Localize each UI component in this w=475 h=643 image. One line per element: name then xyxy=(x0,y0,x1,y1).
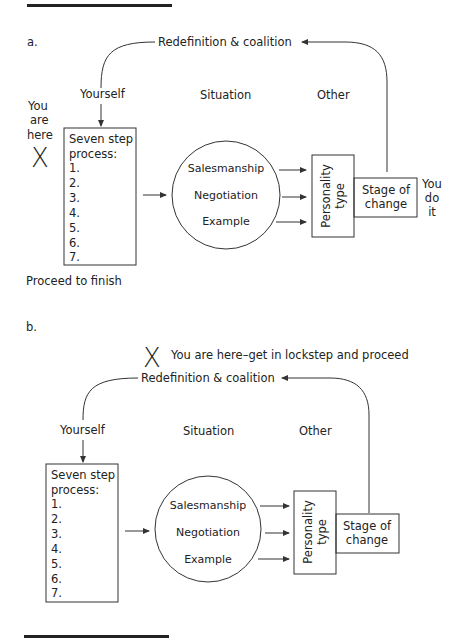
you-are-here-2: are xyxy=(30,113,49,127)
circle-negotiation: Negotiation xyxy=(194,189,258,202)
loop-left-curve xyxy=(101,42,155,88)
step-6: 6. xyxy=(69,236,80,250)
personality-b-line-2: type xyxy=(315,519,329,545)
circle-b-example: Example xyxy=(184,553,232,566)
personality-line-1: Personality xyxy=(319,164,333,228)
circle-example: Example xyxy=(202,215,250,228)
you-do-it-1: You xyxy=(421,177,442,191)
step-7: 7. xyxy=(69,250,80,264)
panel-a-loop-label: Redefinition & coalition xyxy=(158,35,292,49)
personality-line-2: type xyxy=(333,183,347,209)
x-marker-icon: X xyxy=(31,143,49,173)
process-b-title-2: process: xyxy=(51,483,99,497)
panel-a-label: a. xyxy=(27,35,38,49)
process-b-title-1: Seven step xyxy=(51,468,115,482)
stage-line-2: change xyxy=(365,197,407,211)
step-b-6: 6. xyxy=(51,572,62,586)
panel-a: a. Redefinition & coalition Yourself Sit… xyxy=(26,35,442,288)
step-b-5: 5. xyxy=(51,557,62,571)
x-marker-icon-b: X xyxy=(143,343,161,373)
stage-b-line-2: change xyxy=(346,533,388,547)
panel-b-label: b. xyxy=(26,320,37,334)
step-3: 3. xyxy=(69,191,80,205)
loop-left-curve-b xyxy=(83,378,138,420)
col-situation: Situation xyxy=(200,88,251,102)
you-are-here-1: You xyxy=(27,99,48,113)
panel-b-loop-label: Redefinition & coalition xyxy=(141,371,275,385)
step-5: 5. xyxy=(69,221,80,235)
col-other-b: Other xyxy=(299,424,332,438)
step-b-7: 7. xyxy=(51,586,62,600)
process-title-1: Seven step xyxy=(69,132,133,146)
step-b-2: 2. xyxy=(51,512,62,526)
step-2: 2. xyxy=(69,176,80,190)
step-b-1: 1. xyxy=(51,497,62,511)
personality-b-line-1: Personality xyxy=(301,500,315,564)
circle-b-negotiation: Negotiation xyxy=(176,526,240,539)
loop-right-arrow-b xyxy=(282,378,369,513)
process-title-2: process: xyxy=(69,147,117,161)
circle-salesmanship: Salesmanship xyxy=(188,162,264,175)
you-do-it-3: it xyxy=(428,205,436,219)
panel-b: b. X You are here–get in lockstep and pr… xyxy=(26,320,409,602)
loop-right-arrow xyxy=(302,42,387,172)
top-rule xyxy=(27,4,172,7)
col-yourself: Yourself xyxy=(79,87,126,101)
step-4: 4. xyxy=(69,206,80,220)
stage-line-1: Stage of xyxy=(362,183,411,197)
step-b-4: 4. xyxy=(51,542,62,556)
col-other: Other xyxy=(317,88,350,102)
stage-b-line-1: Stage of xyxy=(343,519,392,533)
bottom-rule xyxy=(24,635,169,638)
col-situation-b: Situation xyxy=(183,424,234,438)
step-b-3: 3. xyxy=(51,527,62,541)
diagram-canvas: a. Redefinition & coalition Yourself Sit… xyxy=(0,0,475,643)
col-yourself-b: Yourself xyxy=(59,423,106,437)
circle-b-salesmanship: Salesmanship xyxy=(170,499,246,512)
you-are-here-3: here xyxy=(27,128,53,142)
you-do-it-2: do xyxy=(425,191,439,205)
proceed-to-finish: Proceed to finish xyxy=(26,274,122,288)
step-1: 1. xyxy=(69,161,80,175)
panel-b-marker-text: You are here–get in lockstep and proceed xyxy=(170,348,409,362)
